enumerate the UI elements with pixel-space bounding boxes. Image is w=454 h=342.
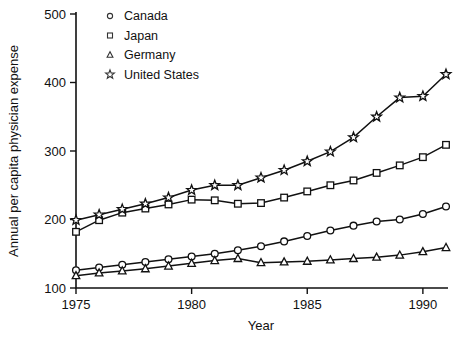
data-point-marker — [188, 196, 195, 203]
data-point-marker — [73, 229, 80, 236]
data-point-marker — [234, 254, 242, 261]
y-axis-tick-label: 100 — [44, 281, 66, 296]
data-point-marker — [281, 238, 288, 245]
x-axis-tick-label: 1985 — [293, 297, 322, 312]
series-japan — [73, 142, 450, 236]
data-point-marker — [187, 185, 197, 194]
legend-item-japan[interactable]: Japan — [108, 29, 159, 43]
circle-legend-icon — [107, 13, 112, 18]
data-point-marker — [210, 180, 220, 189]
data-point-marker — [373, 170, 380, 177]
data-point-marker — [279, 165, 289, 174]
chart-figure: 1002003004005001975198019851990YearAnnua… — [0, 0, 454, 342]
data-point-marker — [442, 243, 450, 250]
data-point-marker — [350, 177, 357, 184]
series-line — [76, 145, 446, 232]
data-point-marker — [233, 180, 243, 189]
y-axis-tick-label: 500 — [44, 7, 66, 22]
square-legend-icon — [108, 33, 113, 38]
data-point-marker — [71, 215, 81, 224]
x-axis-tick-label: 1980 — [177, 297, 206, 312]
line-chart-canvas: 1002003004005001975198019851990YearAnnua… — [0, 0, 454, 342]
data-point-marker — [326, 147, 336, 156]
data-point-marker — [420, 154, 427, 161]
y-axis-tick-label: 400 — [44, 75, 66, 90]
data-point-marker — [419, 211, 426, 218]
data-point-marker — [258, 200, 265, 207]
data-point-marker — [256, 173, 266, 182]
data-point-marker — [211, 197, 218, 204]
data-point-marker — [327, 182, 334, 189]
data-point-marker — [281, 194, 288, 201]
data-point-marker — [327, 227, 334, 234]
data-point-marker — [302, 156, 312, 165]
data-point-marker — [304, 233, 311, 240]
series-line — [76, 74, 446, 220]
chart-legend: CanadaJapanGermanyUnited States — [106, 9, 199, 82]
legend-label: United States — [124, 68, 199, 82]
triangle-legend-icon — [107, 52, 113, 58]
legend-label: Germany — [124, 48, 176, 62]
legend-item-germany[interactable]: Germany — [107, 48, 176, 62]
x-axis-tick-label: 1975 — [62, 297, 91, 312]
y-axis-title: Annual per capita physician expense — [6, 45, 21, 257]
data-point-marker — [234, 247, 241, 254]
data-point-marker — [304, 188, 311, 195]
data-point-marker — [396, 216, 403, 223]
data-point-marker — [165, 201, 172, 208]
data-point-marker — [235, 200, 242, 207]
data-point-marker — [443, 203, 450, 210]
legend-label: Japan — [124, 29, 158, 43]
legend-item-united-states[interactable]: United States — [106, 68, 199, 82]
data-point-marker — [258, 243, 265, 250]
legend-item-canada[interactable]: Canada — [107, 9, 167, 23]
data-point-marker — [350, 222, 357, 229]
legend-label: Canada — [124, 9, 168, 23]
y-axis-tick-label: 200 — [44, 212, 66, 227]
star-legend-icon — [106, 70, 115, 78]
plot-area: 1002003004005001975198019851990YearAnnua… — [6, 7, 451, 334]
data-point-marker — [373, 218, 380, 225]
data-point-marker — [164, 192, 174, 201]
x-axis-title: Year — [248, 318, 275, 333]
data-point-marker — [443, 142, 450, 149]
x-axis-tick-label: 1990 — [408, 297, 437, 312]
data-point-marker — [396, 162, 403, 169]
y-axis-tick-label: 300 — [44, 144, 66, 159]
